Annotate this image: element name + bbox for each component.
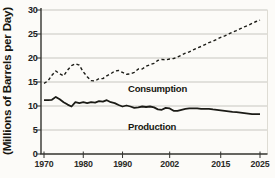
y-tick-label-5: 5	[33, 125, 38, 135]
x-tick-label-1970: 1970	[35, 159, 54, 169]
y-tick-label-30: 30	[28, 5, 38, 15]
x-tick-label-1990: 1990	[113, 159, 132, 169]
y-tick-label-20: 20	[28, 53, 38, 63]
x-tick-label-2025: 2025	[251, 159, 270, 169]
consumption-series-label: Consumption	[128, 83, 187, 94]
consumption-line	[44, 20, 260, 83]
y-axis-title: (Millions of Barrels per Day)	[2, 7, 13, 155]
axes	[40, 8, 267, 154]
petroleum-consumption-production-chart: 051015202530 197019801990200220152025 (M…	[0, 0, 275, 178]
y-axis-ticks: 051015202530	[28, 5, 41, 159]
x-tick-label-2015: 2015	[211, 159, 230, 169]
x-tick-label-2002: 2002	[160, 159, 179, 169]
x-tick-label-1980: 1980	[74, 159, 93, 169]
y-tick-label-15: 15	[28, 77, 38, 87]
chart-canvas: 051015202530 197019801990200220152025 (M…	[0, 0, 275, 178]
production-series-label: Production	[128, 121, 177, 132]
y-tick-label-10: 10	[28, 101, 38, 111]
y-tick-label-25: 25	[28, 29, 38, 39]
